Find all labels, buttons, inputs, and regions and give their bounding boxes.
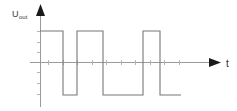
right-arrow-icon bbox=[209, 58, 221, 67]
y-axis-label: U bbox=[12, 9, 19, 19]
waveform-figure: U out t bbox=[0, 0, 237, 111]
y-axis-label-subscript: out bbox=[19, 14, 28, 20]
up-arrow-icon bbox=[36, 4, 45, 16]
waveform-svg: U out t bbox=[0, 0, 237, 111]
x-axis-label: t bbox=[226, 58, 229, 69]
